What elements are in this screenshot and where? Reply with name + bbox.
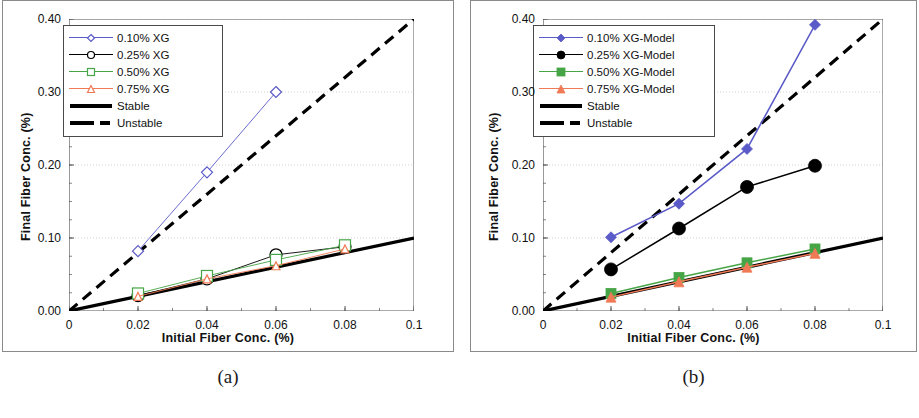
- legend-key-icon: [539, 65, 583, 79]
- legend-item-0: 0.10% XG: [69, 29, 217, 46]
- figure-container: Final Fiber Conc. (%) Initial Fiber Conc…: [0, 0, 919, 418]
- x-axis-label-b: Initial Fiber Conc. (%): [471, 331, 916, 345]
- y-tick-label: 0.40: [17, 12, 61, 26]
- x-axis-label-a: Initial Fiber Conc. (%): [3, 331, 453, 345]
- legend-label: 0.10% XG: [113, 32, 169, 44]
- legend-key-icon: [539, 31, 583, 45]
- y-tick-label: 0.40: [491, 12, 535, 26]
- legend-label: Stable: [583, 100, 620, 112]
- legend-label: Unstable: [113, 117, 162, 129]
- legend-item-ref-1: Unstable: [69, 114, 217, 131]
- series-line-2: [138, 245, 345, 293]
- legend-item-ref-0: Stable: [69, 97, 217, 114]
- legend-key-icon: [69, 116, 113, 130]
- legend-label: Stable: [113, 100, 150, 112]
- x-tick-label: 0.02: [126, 318, 149, 332]
- legend-label: 0.10% XG-Model: [583, 32, 675, 44]
- y-tick-label: 0.30: [491, 85, 535, 99]
- legend-label: 0.50% XG: [113, 66, 169, 78]
- legend-item-2: 0.50% XG-Model: [539, 63, 709, 80]
- legend-label: 0.75% XG-Model: [583, 83, 675, 95]
- legend-item-3: 0.75% XG: [69, 80, 217, 97]
- legend-item-1: 0.25% XG-Model: [539, 46, 709, 63]
- legend-item-1: 0.25% XG: [69, 46, 217, 63]
- legend-key-icon: [539, 48, 583, 62]
- x-tick-label: 0: [540, 318, 547, 332]
- series-line-2: [611, 249, 815, 294]
- legend-key-icon: [69, 99, 113, 113]
- series-line-3: [611, 253, 815, 297]
- x-tick-label: 0.04: [195, 318, 218, 332]
- x-tick-label: 0.1: [406, 318, 423, 332]
- reference-line-stable: [69, 238, 414, 311]
- y-tick-label: 0.20: [491, 158, 535, 172]
- y-tick-label: 0.10: [17, 231, 61, 245]
- legend-key-icon: [69, 82, 113, 96]
- x-tick-label: 0: [66, 318, 73, 332]
- x-tick-label: 0.08: [803, 318, 826, 332]
- legend-item-ref-1: Unstable: [539, 114, 709, 131]
- panel-caption-b: (b): [470, 366, 917, 388]
- y-axis-label-a: Final Fiber Conc. (%): [19, 112, 33, 241]
- legend-label: Unstable: [583, 117, 632, 129]
- legend-a: 0.10% XG0.25% XG0.50% XG0.75% XGStableUn…: [63, 25, 223, 137]
- legend-key-icon: [69, 48, 113, 62]
- legend-key-icon: [539, 99, 583, 113]
- legend-key-icon: [539, 82, 583, 96]
- legend-key-icon: [69, 65, 113, 79]
- legend-item-3: 0.75% XG-Model: [539, 80, 709, 97]
- chart-panel-b: Final Fiber Conc. (%) Initial Fiber Conc…: [470, 0, 917, 352]
- x-tick-label: 0.08: [333, 318, 356, 332]
- y-tick-label: 0.00: [491, 304, 535, 318]
- legend-item-0: 0.10% XG-Model: [539, 29, 709, 46]
- y-tick-label: 0.00: [17, 304, 61, 318]
- panel-caption-a: (a): [2, 366, 454, 388]
- x-tick-label: 0.06: [264, 318, 287, 332]
- legend-label: 0.25% XG: [113, 49, 169, 61]
- x-tick-label: 0.1: [875, 318, 892, 332]
- chart-panel-a: Final Fiber Conc. (%) Initial Fiber Conc…: [2, 0, 454, 352]
- legend-key-icon: [69, 31, 113, 45]
- y-tick-label: 0.20: [17, 158, 61, 172]
- x-tick-label: 0.02: [599, 318, 622, 332]
- legend-label: 0.75% XG: [113, 83, 169, 95]
- x-tick-label: 0.04: [667, 318, 690, 332]
- legend-item-2: 0.50% XG: [69, 63, 217, 80]
- series-line-1: [611, 166, 815, 270]
- legend-b: 0.10% XG-Model0.25% XG-Model0.50% XG-Mod…: [533, 25, 715, 137]
- x-tick-label: 0.06: [735, 318, 758, 332]
- y-tick-label: 0.10: [491, 231, 535, 245]
- legend-key-icon: [539, 116, 583, 130]
- y-tick-label: 0.30: [17, 85, 61, 99]
- legend-item-ref-0: Stable: [539, 97, 709, 114]
- legend-label: 0.50% XG-Model: [583, 66, 675, 78]
- legend-label: 0.25% XG-Model: [583, 49, 675, 61]
- y-axis-label-b: Final Fiber Conc. (%): [487, 112, 501, 241]
